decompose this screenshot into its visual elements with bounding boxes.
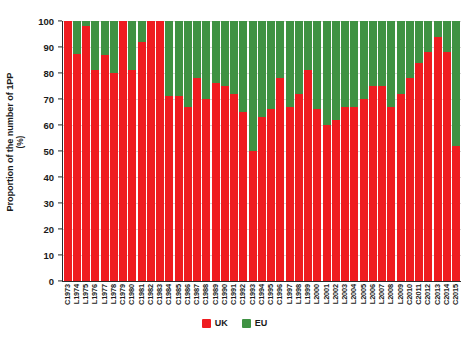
legend-item-uk[interactable]: UK bbox=[202, 318, 228, 328]
bar-segment-eu bbox=[452, 21, 460, 146]
x-tick-label: C1993 bbox=[247, 284, 256, 305]
bar-segment-eu bbox=[276, 21, 284, 78]
bar-segment-eu bbox=[323, 21, 331, 125]
x-tick-label: C2012 bbox=[423, 284, 432, 305]
bar-segment-eu bbox=[165, 21, 173, 96]
bar-segment-uk bbox=[286, 107, 294, 281]
bar-column[interactable] bbox=[147, 21, 155, 281]
bar-column[interactable] bbox=[304, 21, 312, 281]
bar-column[interactable] bbox=[350, 21, 358, 281]
bar-segment-uk bbox=[267, 109, 275, 281]
bar-column[interactable] bbox=[258, 21, 266, 281]
bar-column[interactable] bbox=[369, 21, 377, 281]
x-tick-label: C1973 bbox=[62, 284, 71, 305]
x-tick-label: C1986 bbox=[182, 284, 191, 305]
bar-segment-eu bbox=[360, 21, 368, 99]
bar-segment-eu bbox=[267, 21, 275, 109]
bar-column[interactable] bbox=[230, 21, 238, 281]
bar-column[interactable] bbox=[119, 21, 127, 281]
bar-column[interactable] bbox=[286, 21, 294, 281]
bar-segment-eu bbox=[406, 21, 414, 78]
bar-segment-eu bbox=[443, 21, 451, 52]
bar-column[interactable] bbox=[110, 21, 118, 281]
bar-column[interactable] bbox=[64, 21, 72, 281]
bar-segment-eu bbox=[175, 21, 183, 96]
x-tick-label: L2000 bbox=[312, 284, 321, 304]
bar-column[interactable] bbox=[249, 21, 257, 281]
bar-column[interactable] bbox=[434, 21, 442, 281]
bar-series-container bbox=[63, 21, 461, 281]
bar-column[interactable] bbox=[175, 21, 183, 281]
bar-column[interactable] bbox=[378, 21, 386, 281]
bar-column[interactable] bbox=[276, 21, 284, 281]
x-tick-label: L1998 bbox=[293, 284, 302, 304]
bar-column[interactable] bbox=[101, 21, 109, 281]
bar-segment-uk bbox=[221, 86, 229, 281]
bar-column[interactable] bbox=[313, 21, 321, 281]
bar-column[interactable] bbox=[184, 21, 192, 281]
bar-segment-eu bbox=[350, 21, 358, 107]
bar-segment-uk bbox=[258, 117, 266, 281]
x-tick-label: L2008 bbox=[386, 284, 395, 304]
bar-segment-eu bbox=[138, 21, 146, 42]
bar-column[interactable] bbox=[239, 21, 247, 281]
x-tick-label: C1983 bbox=[155, 284, 164, 305]
bar-segment-eu bbox=[91, 21, 99, 70]
x-tick-label: C1982 bbox=[145, 284, 154, 305]
bar-column[interactable] bbox=[91, 21, 99, 281]
bar-column[interactable] bbox=[415, 21, 423, 281]
legend-label: EU bbox=[255, 318, 268, 328]
y-tick-label: 60 bbox=[43, 120, 54, 131]
x-tick-label: L2002 bbox=[330, 284, 339, 304]
y-tick-label: 90 bbox=[43, 42, 54, 53]
bar-column[interactable] bbox=[267, 21, 275, 281]
bar-segment-eu bbox=[424, 21, 432, 52]
bar-segment-uk bbox=[424, 52, 432, 281]
bar-column[interactable] bbox=[397, 21, 405, 281]
bar-column[interactable] bbox=[202, 21, 210, 281]
bar-column[interactable] bbox=[82, 21, 90, 281]
bar-column[interactable] bbox=[360, 21, 368, 281]
bar-column[interactable] bbox=[406, 21, 414, 281]
bar-segment-uk bbox=[397, 94, 405, 281]
x-tick-label: L2003 bbox=[340, 284, 349, 304]
bar-segment-uk bbox=[369, 86, 377, 281]
bar-segment-uk bbox=[452, 146, 460, 281]
x-tick-label: C1995 bbox=[266, 284, 275, 305]
bar-segment-eu bbox=[212, 21, 220, 83]
bar-segment-eu bbox=[434, 21, 442, 37]
bar-column[interactable] bbox=[332, 21, 340, 281]
bar-column[interactable] bbox=[212, 21, 220, 281]
bar-column[interactable] bbox=[341, 21, 349, 281]
bar-segment-eu bbox=[369, 21, 377, 86]
bar-column[interactable] bbox=[221, 21, 229, 281]
bar-column[interactable] bbox=[156, 21, 164, 281]
x-tick-label: L1997 bbox=[284, 284, 293, 304]
bar-column[interactable] bbox=[73, 21, 81, 281]
bar-column[interactable] bbox=[295, 21, 303, 281]
y-tick-label: 100 bbox=[38, 16, 54, 27]
bar-segment-uk bbox=[128, 70, 136, 281]
x-tick-label: L1999 bbox=[303, 284, 312, 304]
bar-segment-eu bbox=[249, 21, 257, 151]
x-tick-label: L2004 bbox=[349, 284, 358, 304]
bar-segment-eu bbox=[193, 21, 201, 78]
legend-item-eu[interactable]: EU bbox=[242, 318, 268, 328]
bar-column[interactable] bbox=[424, 21, 432, 281]
x-tick-label: C1992 bbox=[238, 284, 247, 305]
x-tick-label: C1988 bbox=[201, 284, 210, 305]
bar-column[interactable] bbox=[128, 21, 136, 281]
bar-column[interactable] bbox=[443, 21, 451, 281]
bar-column[interactable] bbox=[138, 21, 146, 281]
bar-column[interactable] bbox=[387, 21, 395, 281]
bar-segment-eu bbox=[221, 21, 229, 86]
y-tick-label: 40 bbox=[43, 172, 54, 183]
bar-segment-uk bbox=[119, 21, 127, 281]
bar-column[interactable] bbox=[452, 21, 460, 281]
x-tick-label: C1979 bbox=[118, 284, 127, 305]
bar-column[interactable] bbox=[323, 21, 331, 281]
bar-segment-eu bbox=[128, 21, 136, 70]
bar-column[interactable] bbox=[193, 21, 201, 281]
y-axis-title-text: Proportion of the number of 1PP bbox=[5, 73, 15, 212]
bar-column[interactable] bbox=[165, 21, 173, 281]
